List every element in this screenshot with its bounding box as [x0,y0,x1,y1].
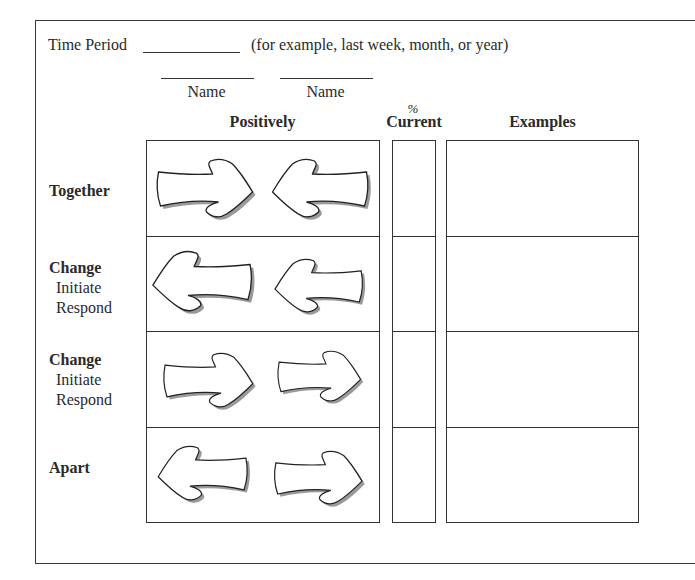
row-divider [147,236,379,237]
row-label-apart: Apart [49,458,90,478]
row-label-change-2: Change Initiate Respond [49,350,112,410]
arrow-left-icon [152,445,254,501]
percent-cell-change-1[interactable] [393,237,435,331]
row-sub-respond: Respond [49,390,112,410]
column-header-examples: Examples [446,113,639,131]
name-label-1: Name [160,83,253,101]
arrow-left-icon [268,258,370,313]
arrow-right-icon [158,352,258,408]
time-period-hint: (for example, last week, month, or year) [251,36,508,54]
examples-column [446,140,639,523]
row-label-change-1: Change Initiate Respond [49,258,112,318]
row-title: Change [49,350,112,370]
column-header-current: Current [378,113,450,131]
name-input-2[interactable] [280,78,373,79]
row-title: Change [49,258,112,278]
percent-cell-together[interactable] [393,141,435,236]
time-period-input[interactable] [143,52,240,53]
examples-cell-change-1[interactable] [447,237,638,331]
arrow-left-icon [150,250,255,312]
arrow-left-icon [268,158,373,218]
percent-cell-apart[interactable] [393,428,435,522]
arrow-right-icon [271,350,367,402]
row-title: Apart [49,458,90,478]
arrow-right-icon [268,450,368,505]
arrow-right-icon [152,158,257,218]
row-divider [147,427,379,428]
row-sub-initiate: Initiate [49,370,112,390]
percent-cell-change-2[interactable] [393,332,435,427]
column-header-positively: Positively [146,113,379,131]
percent-current-column [392,140,436,523]
row-label-together: Together [49,181,110,201]
name-input-1[interactable] [161,78,254,79]
name-label-2: Name [279,83,372,101]
row-divider [147,331,379,332]
row-title: Together [49,181,110,201]
row-sub-initiate: Initiate [49,278,112,298]
examples-cell-together[interactable] [447,141,638,236]
examples-cell-change-2[interactable] [447,332,638,427]
time-period-label: Time Period [48,36,127,54]
row-sub-respond: Respond [49,298,112,318]
examples-cell-apart[interactable] [447,428,638,522]
